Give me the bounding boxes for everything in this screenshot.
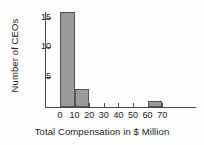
x-tick-mark-0 [60, 103, 61, 108]
x-tick-mark-30 [104, 103, 105, 108]
x-axis-line [45, 107, 196, 108]
histogram-bar-10-20 [75, 89, 90, 107]
histogram-figure: Number of CEOs 51015 010203040506070 Tot… [0, 0, 204, 145]
x-tick-label-70: 70 [152, 110, 172, 120]
y-axis-line [45, 12, 46, 108]
x-tick-mark-50 [133, 103, 134, 108]
y-tick-5: 5 [0, 77, 51, 78]
y-tick-mark [45, 47, 51, 48]
histogram-bar-0-10 [60, 12, 75, 107]
y-tick-10: 10 [0, 47, 51, 48]
y-tick-15: 15 [0, 18, 51, 19]
x-axis-title: Total Compensation in $ Million [0, 126, 204, 137]
y-tick-mark [45, 18, 51, 19]
y-axis-title: Number of CEOs [9, 8, 20, 104]
x-tick-mark-40 [118, 103, 119, 108]
y-tick-mark [45, 77, 51, 78]
x-tick-mark-20 [89, 103, 90, 108]
x-tick-mark-10 [75, 103, 76, 108]
x-tick-mark-70 [162, 103, 163, 108]
x-tick-mark-60 [148, 103, 149, 108]
